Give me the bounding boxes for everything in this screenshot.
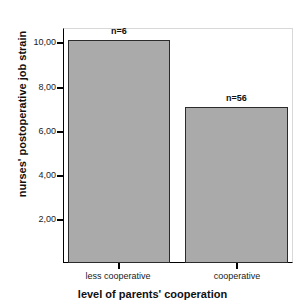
- y-tick-label-8: 8,00: [20, 83, 56, 92]
- bar-cooperative[interactable]: [185, 107, 288, 263]
- bar-chart: nurses' postoperative job strain 10,00 8…: [0, 0, 305, 307]
- bar-less-cooperative[interactable]: [68, 40, 170, 263]
- x-tick-mark-less-cooperative: [118, 263, 120, 269]
- y-axis-tick-labels: 10,00 8,00 6,00 4,00 2,00: [20, 0, 56, 307]
- x-category-label-less-cooperative: less cooperative: [63, 271, 173, 281]
- y-tick-label-10: 10,00: [20, 38, 56, 47]
- y-tick-label-2: 2,00: [20, 215, 56, 224]
- bar-annotation-cooperative: n=56: [185, 93, 288, 103]
- y-tick-label-4: 4,00: [20, 171, 56, 180]
- x-axis-title: level of parents' cooperation: [0, 288, 305, 301]
- x-category-label-cooperative: cooperative: [182, 271, 292, 281]
- x-tick-mark-cooperative: [236, 263, 238, 269]
- bar-annotation-less-cooperative: n=6: [68, 26, 170, 36]
- y-tick-label-6: 6,00: [20, 127, 56, 136]
